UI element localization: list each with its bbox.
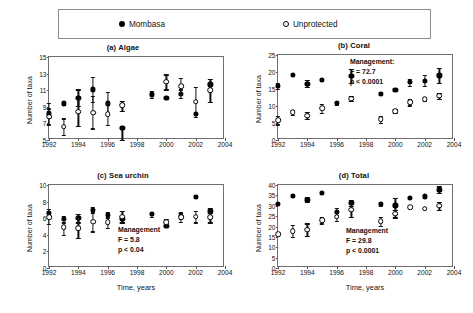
x-tick-mark <box>196 138 197 141</box>
y-tick-mark <box>47 202 50 203</box>
x-tick-label: 1996 <box>329 141 344 148</box>
data-point-unprotected <box>193 99 199 105</box>
y-tick-mark <box>276 227 279 228</box>
data-point-unprotected <box>178 83 184 89</box>
data-point-unprotected <box>90 110 96 116</box>
y-tick-label: 15 <box>268 86 275 93</box>
x-tick-label: 2000 <box>159 269 174 276</box>
data-point-unprotected <box>378 116 384 122</box>
data-point-unprotected <box>178 215 184 221</box>
x-tick-mark <box>78 266 79 269</box>
data-point-mombasa <box>290 72 295 77</box>
y-tick-label: 15 <box>39 54 46 61</box>
x-tick-label: 1994 <box>71 269 86 276</box>
data-point-unprotected <box>393 108 399 114</box>
error-bar-cap <box>91 128 95 129</box>
y-tick-mark <box>276 247 279 248</box>
x-tick-mark <box>137 266 138 269</box>
x-tick-label: 2004 <box>447 141 462 148</box>
annotation-total-line3: p < 0.0001 <box>346 246 388 256</box>
data-point-unprotected <box>208 215 214 221</box>
annotation-coral-line1: Management: <box>350 57 394 67</box>
y-tick-label: 25 <box>268 52 275 59</box>
y-tick-mark <box>47 90 50 91</box>
error-bar-cap <box>105 228 109 229</box>
data-point-unprotected <box>90 219 96 225</box>
data-point-unprotected <box>46 215 52 221</box>
error-bar-cap <box>76 89 80 90</box>
x-tick-mark <box>166 138 167 141</box>
panel-total: (d) Total 051015202530354019921994199619… <box>240 171 468 309</box>
panel-tag-b: (b) <box>338 41 348 50</box>
x-tick-mark <box>225 138 226 141</box>
data-point-unprotected <box>349 207 355 213</box>
x-tick-mark <box>337 266 338 269</box>
panel-name-d: Total <box>351 171 369 180</box>
filled-circle-icon <box>119 21 125 27</box>
x-tick-label: 1998 <box>359 141 374 148</box>
panel-title-coral: (b) Coral <box>240 41 468 50</box>
x-tick-mark <box>108 266 109 269</box>
y-tick-mark <box>276 216 279 217</box>
data-point-unprotected <box>437 93 443 99</box>
x-tick-label: 2000 <box>388 269 403 276</box>
error-bar-cap <box>320 223 324 224</box>
y-axis-label-sea-urchin: Number of taxa <box>26 204 33 252</box>
panel-algae: (a) Algae 579111315199219941996199820002… <box>14 43 232 161</box>
data-point-mombasa <box>407 195 412 200</box>
data-point-unprotected <box>349 96 355 102</box>
annotation-sea-urchin-line2: F = 5.8 <box>118 235 160 245</box>
x-tick-label: 2004 <box>218 141 233 148</box>
error-bar-cap <box>320 113 324 114</box>
error-bar-cap <box>408 105 412 106</box>
legend-item-unprotected: Unprotected <box>283 20 338 29</box>
error-bar-cap <box>290 225 294 226</box>
error-bar-cap <box>437 99 441 100</box>
error-bar-cap <box>393 217 397 218</box>
data-point-unprotected <box>76 109 82 115</box>
error-bar-cap <box>164 89 168 90</box>
annotation-sea-urchin-line3: p < 0.04 <box>118 245 160 255</box>
x-axis-label-total: Time, years <box>277 283 453 292</box>
error-bar-cap <box>164 74 168 75</box>
x-tick-label: 1994 <box>71 141 86 148</box>
x-tick-mark <box>49 138 50 141</box>
figure-canvas: Mombasa Unprotected (a) Algae 5791113151… <box>0 0 473 313</box>
x-tick-mark <box>454 266 455 269</box>
error-bar-cap <box>61 135 65 136</box>
error-bar-cap <box>91 96 95 97</box>
annotation-coral: Management: F = 72.7 p < 0.0001 <box>350 57 394 87</box>
x-tick-mark <box>337 138 338 141</box>
y-tick-label: 20 <box>268 69 275 76</box>
data-point-unprotected <box>193 214 199 220</box>
error-bar-cap <box>179 94 183 95</box>
y-tick-mark <box>47 185 50 186</box>
x-tick-mark <box>49 266 50 269</box>
y-tick-mark <box>47 251 50 252</box>
error-bar-cap <box>349 101 353 102</box>
error-bar-cap <box>422 86 426 87</box>
error-bar-cap <box>349 203 353 204</box>
y-tick-mark <box>276 258 279 259</box>
data-point-mombasa <box>164 95 169 100</box>
x-tick-label: 2002 <box>417 269 432 276</box>
data-point-unprotected <box>407 205 413 211</box>
error-bar-cap <box>105 92 109 93</box>
y-tick-label: 40 <box>268 182 275 189</box>
error-bar-cap <box>422 75 426 76</box>
panel-tag-d: (d) <box>339 171 349 180</box>
error-bar-cap <box>47 125 51 126</box>
x-tick-label: 1998 <box>359 269 374 276</box>
x-tick-label: 1996 <box>100 269 115 276</box>
data-point-mombasa <box>437 187 442 192</box>
error-bar-cap <box>276 89 280 90</box>
annotation-coral-line2: F = 72.7 <box>350 67 394 77</box>
panel-title-sea-urchin: (c) Sea urchin <box>14 171 232 180</box>
data-point-unprotected <box>164 79 170 85</box>
x-tick-label: 2002 <box>417 141 432 148</box>
data-point-unprotected <box>305 113 311 119</box>
x-tick-mark <box>395 138 396 141</box>
x-tick-mark <box>225 266 226 269</box>
data-point-mombasa <box>305 81 310 86</box>
error-bar-cap <box>47 211 51 212</box>
